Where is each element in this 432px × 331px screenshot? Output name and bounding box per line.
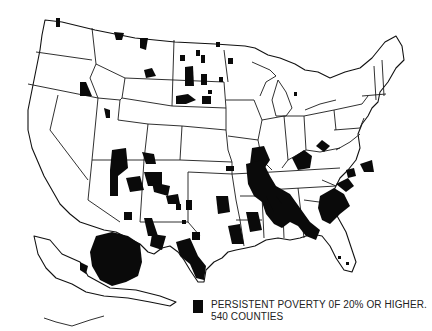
- legend-swatch-persistent-poverty: [193, 300, 203, 313]
- poverty-map: PERSISTENT POVERTY 0F 20% OR HIGHER. 540…: [0, 0, 432, 331]
- legend-label-line1: PERSISTENT POVERTY 0F 20% OR HIGHER.: [211, 299, 427, 310]
- us-county-map: [0, 0, 432, 331]
- legend-label: PERSISTENT POVERTY 0F 20% OR HIGHER. 540…: [211, 299, 427, 323]
- map-legend: PERSISTENT POVERTY 0F 20% OR HIGHER. 540…: [193, 299, 432, 323]
- legend-label-line2: 540 COUNTIES: [211, 311, 427, 323]
